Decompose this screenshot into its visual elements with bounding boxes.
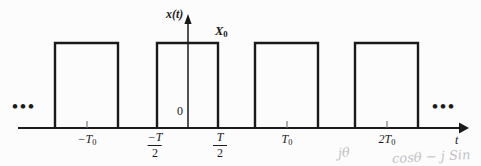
tick-text: 2T bbox=[379, 132, 392, 146]
pulse-3 bbox=[255, 43, 318, 128]
t-axis-label: t bbox=[455, 134, 458, 146]
left-continuation-ellipsis: ••• bbox=[12, 98, 36, 115]
right-continuation-ellipsis: ••• bbox=[432, 98, 456, 115]
handwritten-annotation-1: jθ bbox=[338, 146, 351, 160]
x-axis-label: x(t) bbox=[166, 8, 183, 20]
tick-subscript: 0 bbox=[288, 138, 292, 147]
tick-label-T0: T0 bbox=[282, 133, 293, 145]
handwritten-annotation-2: cosθ − j Sin bbox=[392, 148, 471, 165]
tick-subscript: 0 bbox=[391, 138, 395, 147]
pulse-1 bbox=[55, 43, 118, 128]
tick-subscript: 0 bbox=[92, 138, 96, 147]
fraction-numerator: −T bbox=[146, 131, 165, 144]
tick-label-minus-T0: −T0 bbox=[78, 133, 97, 145]
pulse-train-figure: x(t) X0 0 t −T0 T0 2T0 −T 2 T 2 ••• ••• … bbox=[0, 0, 481, 166]
tick-text: −T bbox=[78, 132, 93, 146]
tick-label-2T0: 2T0 bbox=[379, 133, 396, 145]
fraction-numerator: T bbox=[213, 131, 227, 144]
tick-label-T-over-2: T 2 bbox=[213, 131, 227, 159]
pulse-train-waveform bbox=[55, 43, 418, 128]
pulse-4 bbox=[355, 43, 418, 128]
tick-text: T bbox=[282, 132, 289, 146]
amplitude-subscript: 0 bbox=[223, 29, 227, 39]
origin-label: 0 bbox=[177, 105, 183, 117]
fraction-denominator: 2 bbox=[146, 147, 165, 160]
tick-label-minus-T-over-2: −T 2 bbox=[146, 131, 165, 159]
fraction-denominator: 2 bbox=[213, 147, 227, 160]
x-axis bbox=[184, 14, 191, 128]
amplitude-label: X0 bbox=[215, 25, 228, 38]
waveform-plot bbox=[0, 0, 481, 166]
